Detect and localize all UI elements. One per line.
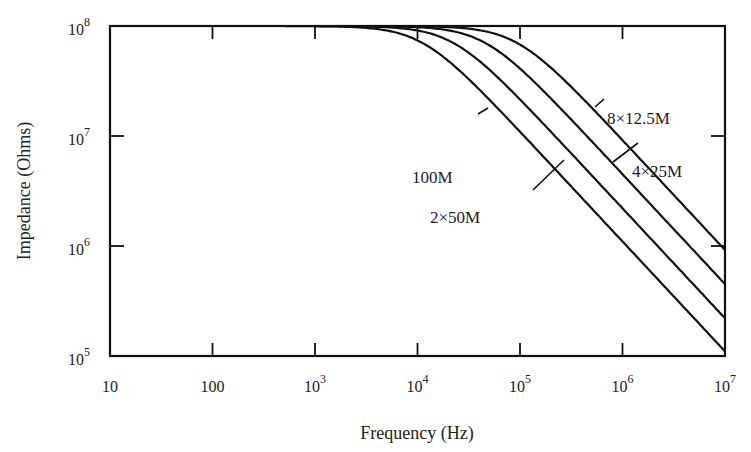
leader-8x12_5m [595,99,604,107]
x-axis: 10100103104105106107 [102,26,736,395]
x-tick-label: 107 [714,372,736,395]
leader-100m [478,108,488,114]
x-tick-label: 105 [509,372,531,395]
x-tick-label: 10 [102,378,118,395]
y-tick-label: 106 [68,235,90,258]
curve-label: 8×12.5M [607,109,670,128]
y-axis-title: Impedance (Ohms) [14,122,35,260]
plot-area [110,26,725,356]
x-tick-label: 103 [304,372,326,395]
impedance-chart: 10100103104105106107 108107106105 100M2×… [0,0,751,452]
series-lines [110,26,725,351]
curve-label: 2×50M [430,208,480,227]
series-line-2 [110,26,725,284]
x-axis-title: Frequency (Hz) [360,423,473,444]
y-tick-label: 108 [68,15,90,38]
curve-label: 100M [412,168,453,187]
x-tick-label: 104 [407,372,429,395]
x-tick-label: 106 [612,372,634,395]
y-axis: 108107106105 [68,15,725,368]
series-line-0 [110,26,725,351]
x-tick-label: 100 [201,378,225,395]
curve-label: 4×25M [632,162,682,181]
curve-labels: 100M2×50M4×25M8×12.5M [412,99,682,227]
y-tick-label: 105 [68,345,90,368]
series-line-3 [110,26,725,250]
y-tick-label: 107 [68,125,90,148]
plot-frame [110,26,725,356]
